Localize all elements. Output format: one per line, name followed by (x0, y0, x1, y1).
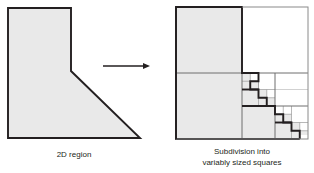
cell-filled (292, 123, 300, 131)
right-panel-caption-line2: variably sized squares (202, 158, 281, 167)
cell-filled (242, 73, 250, 81)
cell-filled (242, 90, 259, 107)
cell-filled (176, 7, 242, 73)
cell-filled (259, 98, 267, 106)
cell-filled (259, 90, 267, 98)
cell-filled (242, 81, 250, 89)
cell-filled (176, 73, 242, 139)
cell-filled (300, 131, 308, 135)
left-panel-caption: 2D region (57, 150, 92, 159)
cell-filled (292, 131, 300, 139)
cell-filled (267, 98, 275, 106)
right-panel-caption-line1: Subdivision into (214, 147, 271, 156)
cell-filled (283, 114, 291, 122)
cell-filled (275, 114, 283, 122)
cell-filled (275, 123, 292, 140)
cell-filled (250, 81, 258, 89)
cell-filled (242, 106, 275, 139)
quadtree-subdivision-figure: 2D region (0, 0, 314, 173)
